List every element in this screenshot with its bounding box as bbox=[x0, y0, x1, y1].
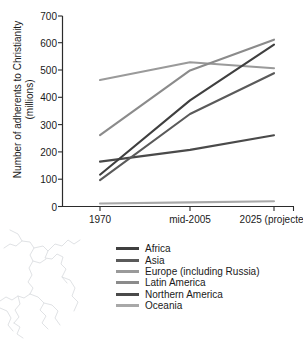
x-tick-marks bbox=[100, 207, 294, 212]
chart-legend: Africa Asia Europe (including Russia) La… bbox=[116, 243, 296, 311]
y-tick-label-100: 100 bbox=[40, 174, 57, 185]
y-tick-marks bbox=[58, 16, 63, 207]
legend-swatch-europe bbox=[116, 270, 139, 273]
y-tick-label-400: 400 bbox=[40, 92, 57, 103]
series-line-latin-america bbox=[100, 40, 274, 136]
legend-swatch-latin-america bbox=[116, 281, 139, 284]
legend-item-europe: Europe (including Russia) bbox=[116, 266, 296, 277]
legend-label-latin-america: Latin America bbox=[145, 277, 206, 288]
x-tick-label-mid-2005: mid-2005 bbox=[169, 214, 211, 225]
legend-swatch-northern-america bbox=[116, 293, 139, 296]
map-watermark-icon bbox=[0, 228, 86, 341]
legend-item-africa: Africa bbox=[116, 243, 296, 254]
plot-svg bbox=[62, 16, 294, 207]
series-line-asia bbox=[100, 73, 274, 180]
legend-label-europe: Europe (including Russia) bbox=[145, 266, 260, 277]
y-tick-label-600: 600 bbox=[40, 37, 57, 48]
y-axis-title: Number of adherents to Christianity (mil… bbox=[12, 5, 35, 195]
legend-item-latin-america: Latin America bbox=[116, 277, 296, 288]
plot-area: 0 100 200 300 400 500 600 700 1970 mid-2… bbox=[62, 16, 294, 207]
legend-item-asia: Asia bbox=[116, 254, 296, 265]
y-tick-label-500: 500 bbox=[40, 65, 57, 76]
y-tick-label-200: 200 bbox=[40, 146, 57, 157]
legend-swatch-asia bbox=[116, 259, 139, 262]
series-line-europe-including-russia bbox=[100, 62, 274, 80]
legend-item-northern-america: Northern America bbox=[116, 289, 296, 300]
legend-label-asia: Asia bbox=[145, 255, 164, 266]
y-tick-label-300: 300 bbox=[40, 119, 57, 130]
series-line-northern-america bbox=[100, 135, 274, 161]
legend-label-africa: Africa bbox=[145, 243, 171, 254]
legend-label-northern-america: Northern America bbox=[145, 289, 223, 300]
x-tick-label-1970: 1970 bbox=[89, 214, 111, 225]
y-tick-label-700: 700 bbox=[40, 11, 57, 22]
legend-swatch-africa bbox=[116, 247, 139, 250]
legend-item-oceania: Oceania bbox=[116, 300, 296, 311]
line-chart: Number of adherents to Christianity (mil… bbox=[0, 0, 303, 232]
y-tick-label-0: 0 bbox=[51, 201, 57, 212]
chart-page: Number of adherents to Christianity (mil… bbox=[0, 0, 303, 341]
legend-swatch-oceania bbox=[116, 304, 139, 307]
series-line-africa bbox=[100, 45, 274, 175]
legend-label-oceania: Oceania bbox=[145, 300, 182, 311]
x-tick-label-2025: 2025 (projected) bbox=[240, 214, 303, 225]
series-line-oceania bbox=[100, 201, 274, 203]
